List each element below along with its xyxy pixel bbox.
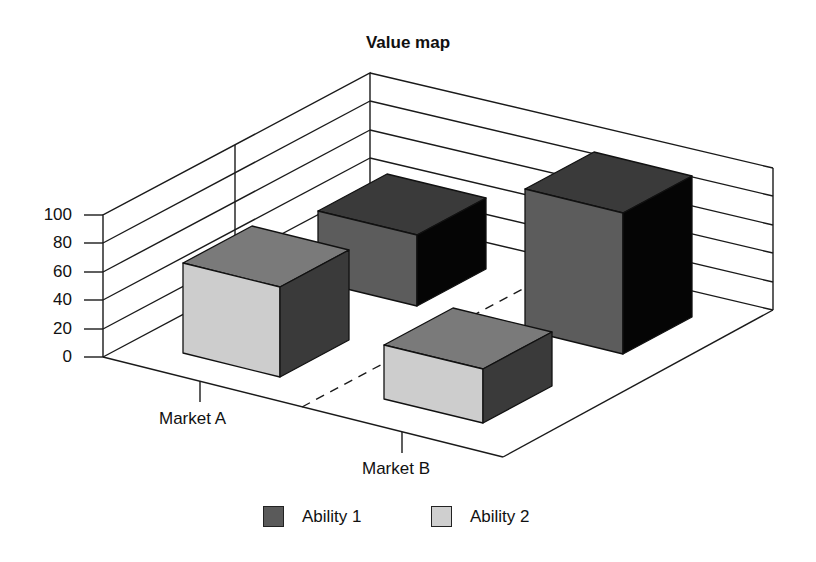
ytick-label-80: 80 [12,234,72,252]
bar-market-a-ability-2 [183,226,349,377]
ytick-label-100: 100 [12,206,72,224]
legend-swatch-ability-1 [263,506,284,527]
ytick-label-60: 60 [12,263,72,281]
legend-label-ability-1: Ability 1 [302,507,362,527]
category-label-market-b: Market B [362,460,430,478]
ytick-label-40: 40 [12,291,72,309]
right-wall-top [370,73,773,168]
bar-market-b-ability-1 [525,152,692,354]
legend-label-ability-2: Ability 2 [470,507,530,527]
ytick-label-0: 0 [12,348,72,366]
chart-legend: Ability 1 Ability 2 [0,506,816,536]
legend-item-ability-1: Ability 1 [263,506,362,527]
ytick-label-20: 20 [12,320,72,338]
category-label-market-a: Market A [159,410,226,428]
legend-swatch-ability-2 [431,506,452,527]
bar-market-b-ability-2 [384,308,552,423]
legend-item-ability-2: Ability 2 [431,506,530,527]
